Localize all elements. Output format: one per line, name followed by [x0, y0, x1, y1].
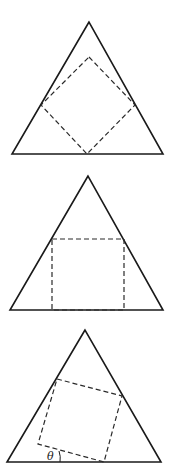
panel-diamond [12, 22, 163, 154]
figure-canvas: θ [0, 0, 176, 469]
angle-label-theta: θ [47, 450, 54, 463]
triangle-3 [7, 330, 161, 462]
triangle-2 [10, 176, 163, 310]
dashed-square-1 [41, 57, 135, 154]
panel-upright-square [10, 176, 163, 310]
triangle-1 [12, 22, 163, 154]
dashed-square-2 [52, 239, 124, 310]
panel-rotated-square: θ [7, 330, 161, 463]
angle-arc [59, 451, 60, 462]
